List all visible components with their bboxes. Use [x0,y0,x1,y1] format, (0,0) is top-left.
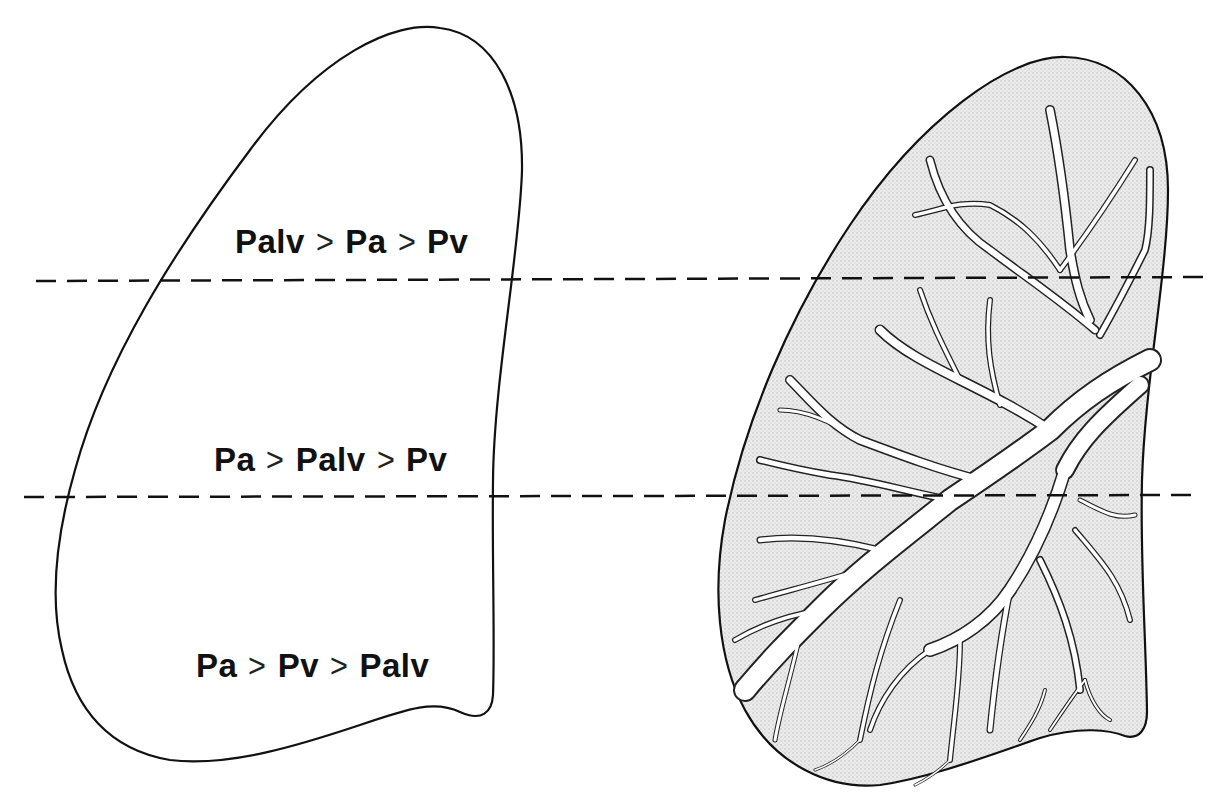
zone-2-part-3: Pv [406,441,447,479]
zone-3-part-2: Pv [278,647,319,685]
zone-1-part-3: Pv [427,223,468,261]
greater-than-symbol: > [248,646,266,685]
zone-3-part-3: Palv [359,647,429,685]
zone-1-part-1: Palv [235,223,305,261]
zone-3-part-1: Pa [196,647,237,685]
zone-2-part-2: Palv [296,441,366,479]
greater-than-symbol: > [266,440,284,479]
zone-1-label: Palv > Pa > Pv [235,222,468,261]
zone-3-label: Pa > Pv > Palv [196,646,429,685]
greater-than-symbol: > [377,440,395,479]
zone-2-label: Pa > Palv > Pv [214,440,447,479]
greater-than-symbol: > [316,222,334,261]
lung-zones-diagram: Palv > Pa > Pv Pa > Palv > Pv Pa > Pv > … [0,0,1225,805]
zone-2-part-1: Pa [214,441,255,479]
zone-1-part-2: Pa [345,223,386,261]
greater-than-symbol: > [398,222,416,261]
diagram-svg [0,0,1225,805]
greater-than-symbol: > [330,646,348,685]
